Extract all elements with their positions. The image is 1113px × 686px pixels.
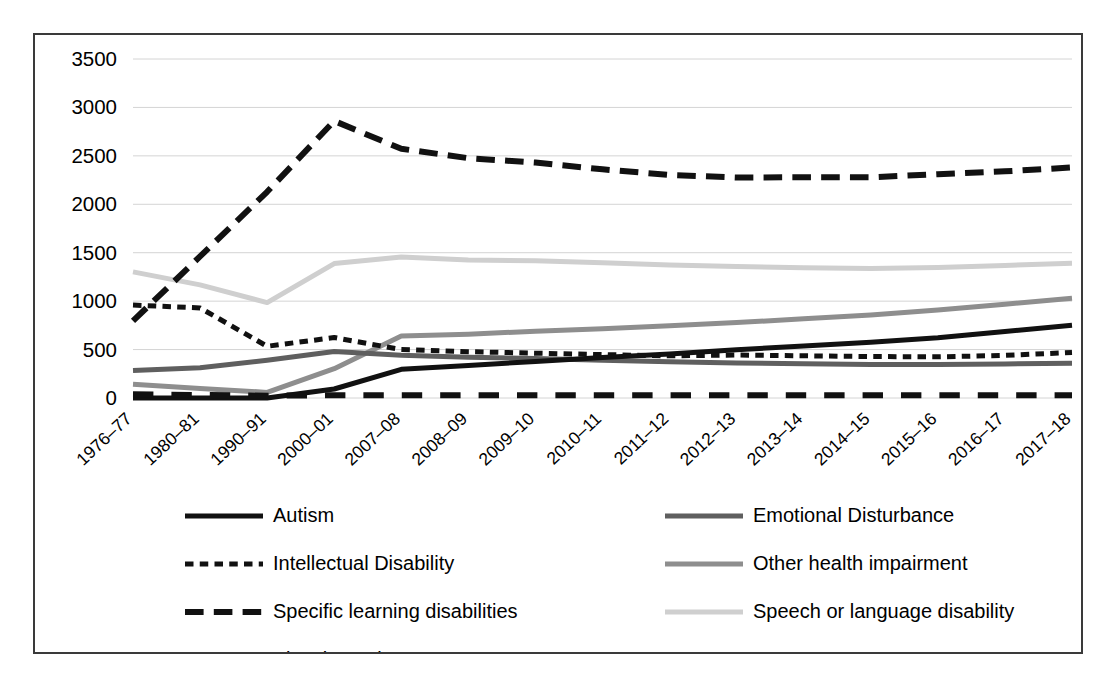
chart-frame: 0500100015002000250030003500 1976–771980… — [33, 33, 1083, 654]
y-tick-label: 2000 — [71, 192, 117, 215]
x-tick-label: 2013–14 — [743, 408, 807, 469]
legend-label: Visual Impairment — [273, 648, 433, 652]
y-tick-label: 3000 — [71, 95, 117, 118]
chart-svg: 0500100015002000250030003500 1976–771980… — [35, 35, 1081, 652]
x-tick-label: 2011–12 — [610, 408, 673, 468]
legend-label: Speech or language disability — [753, 600, 1014, 622]
x-tick-label: 2000–01 — [273, 408, 336, 469]
y-tick-label: 1000 — [71, 289, 117, 312]
legend-label: Other health impairment — [753, 552, 968, 574]
x-tick-label: 1990–91 — [206, 408, 269, 469]
x-tick-label: 2008–09 — [408, 408, 471, 469]
x-tick-label: 2014–15 — [810, 408, 873, 469]
x-tick-label: 2017–18 — [1011, 408, 1074, 469]
y-axis-tick-labels: 0500100015002000250030003500 — [71, 47, 117, 409]
x-tick-label: 2012–13 — [676, 408, 739, 469]
x-tick-label: 1980–81 — [139, 408, 202, 469]
y-tick-label: 1500 — [71, 241, 117, 264]
line-chart: 0500100015002000250030003500 1976–771980… — [35, 35, 1085, 656]
x-tick-label: 1976–77 — [72, 408, 135, 469]
y-tick-label: 3500 — [71, 47, 117, 70]
x-tick-label: 2015–16 — [877, 408, 940, 469]
x-axis-tick-labels: 1976–771980–811990–912000–012007–082008–… — [72, 408, 1074, 469]
y-tick-label: 0 — [106, 386, 117, 409]
series-line-emotional-disturbance — [133, 352, 1072, 371]
legend-label: Specific learning disabilities — [273, 600, 518, 622]
legend-label: Emotional Disturbance — [753, 504, 954, 526]
y-tick-label: 2500 — [71, 144, 117, 167]
chart-legend: AutismEmotional DisturbanceIntellectual … — [185, 504, 1014, 652]
y-tick-label: 500 — [83, 338, 117, 361]
x-tick-label: 2016–17 — [944, 408, 1007, 469]
legend-label: Intellectual Disability — [273, 552, 454, 574]
data-series-group — [133, 121, 1072, 398]
series-line-speech-or-language-disability — [133, 257, 1072, 303]
x-tick-label: 2009–10 — [475, 408, 539, 469]
legend-label: Autism — [273, 504, 334, 526]
x-tick-label: 2007–08 — [341, 408, 404, 469]
series-line-specific-learning-disabilities — [133, 121, 1072, 321]
x-tick-label: 2010–11 — [543, 408, 606, 468]
